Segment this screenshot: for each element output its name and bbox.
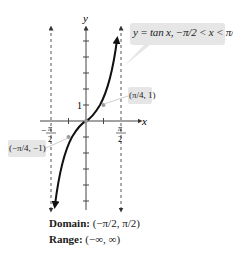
point-lower-label: (−π/4, −1) (9, 143, 46, 153)
x-tick-label-pi-over-2: π 2 (116, 124, 126, 144)
leader-upper (104, 96, 128, 104)
range-title: Range: (49, 233, 83, 245)
range-value: (−∞, ∞) (85, 233, 120, 245)
domain-line: Domain: (−π/2, π/2) (49, 217, 140, 229)
svg-text:π: π (118, 124, 123, 133)
y-axis-label: y (82, 12, 88, 24)
x-axis-label: x (141, 115, 147, 127)
domain-value: (−π/2, π/2) (93, 217, 140, 229)
function-callout-label: y = tan x, −π/2 < x < π/2 (133, 26, 233, 38)
range-line: Range: (−∞, ∞) (49, 233, 120, 245)
svg-text:π: π (48, 124, 53, 133)
point-upper-label: (π/4, 1) (129, 90, 156, 100)
svg-text:−: − (41, 125, 46, 135)
domain-title: Domain: (49, 217, 90, 229)
callout-pointer (124, 45, 150, 66)
y-tick-label-1: 1 (77, 100, 82, 111)
point-origin (84, 119, 88, 123)
svg-text:2: 2 (118, 135, 122, 144)
svg-text:2: 2 (48, 135, 52, 144)
